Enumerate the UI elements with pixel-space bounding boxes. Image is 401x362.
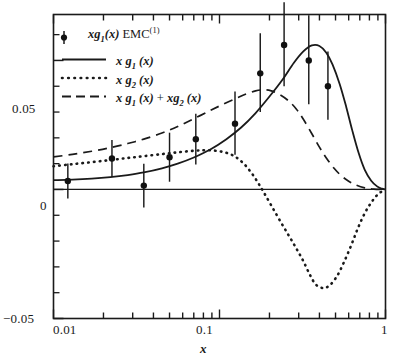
scientific-plot: [0, 0, 401, 362]
data-point: [306, 15, 312, 104]
legend-marker-icon: [61, 34, 67, 40]
legend-label-emc: xg1(x) EMC(1): [88, 25, 159, 44]
data-point: [232, 91, 238, 154]
x-axis-title: x: [200, 341, 207, 357]
x-tick-label-1: 1: [381, 322, 388, 338]
x-tick-label-0.01: 0.01: [53, 322, 77, 338]
data-point: [141, 164, 147, 208]
y-tick-label-0: 0: [40, 198, 47, 214]
data-point: [166, 133, 172, 182]
curve-xg1-plus-xg2: [54, 90, 386, 190]
x-axis-ticks-top: [54, 15, 386, 24]
figure-container: 0.05 0 −0.05 0.01 0.1 1 x xg1(x) EMC(1) …: [0, 0, 401, 362]
data-point: [325, 51, 331, 119]
y-tick-label-neg0.05: −0.05: [3, 311, 34, 327]
x-axis-ticks-bottom: [54, 310, 386, 319]
y-tick-label-0.05: 0.05: [12, 101, 36, 117]
legend-label-xg1: x g1 (x): [116, 54, 154, 71]
curve-xg1: [54, 45, 386, 190]
data-point: [257, 33, 263, 112]
legend-label-sum: x g1 (x) + xg2 (x): [116, 91, 201, 108]
data-point: [65, 163, 71, 198]
data-point: [109, 140, 115, 177]
legend-label-xg2: x g2 (x): [116, 73, 154, 90]
x-tick-label-0.1: 0.1: [196, 322, 213, 338]
